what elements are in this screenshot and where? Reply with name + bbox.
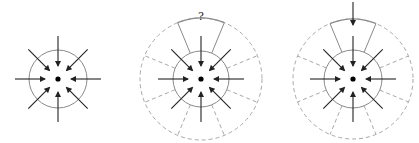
center-point	[350, 76, 355, 81]
wedge-edge	[330, 24, 342, 53]
panel-unknown-sector: ?	[140, 10, 262, 140]
sector-divider	[364, 106, 376, 135]
panel-inward-flow	[15, 36, 101, 122]
center-point	[55, 76, 60, 81]
sector-divider	[380, 90, 409, 102]
inward-arrow	[209, 87, 230, 108]
sector-divider	[227, 56, 257, 69]
sector-divider	[145, 90, 175, 103]
wedge-edge	[212, 23, 225, 53]
sector-divider	[298, 56, 327, 68]
wedge-question-label: ?	[198, 10, 204, 23]
sector-divider	[178, 105, 191, 135]
sector-divider	[380, 56, 409, 68]
inward-arrow	[171, 49, 192, 70]
sector-divider	[145, 56, 175, 69]
sector-divider	[227, 90, 257, 103]
center-point	[198, 76, 203, 81]
sector-divider	[330, 106, 342, 135]
sector-divider	[212, 105, 225, 135]
panel-sector-inflow	[293, 2, 413, 139]
inward-arrow	[171, 87, 192, 108]
inward-arrow	[209, 49, 230, 70]
diagram-canvas: ?	[0, 0, 419, 143]
wedge-edge	[364, 24, 376, 53]
diagram-stage: ?	[0, 0, 419, 143]
wedge-edge	[178, 23, 191, 53]
sector-divider	[298, 90, 327, 102]
